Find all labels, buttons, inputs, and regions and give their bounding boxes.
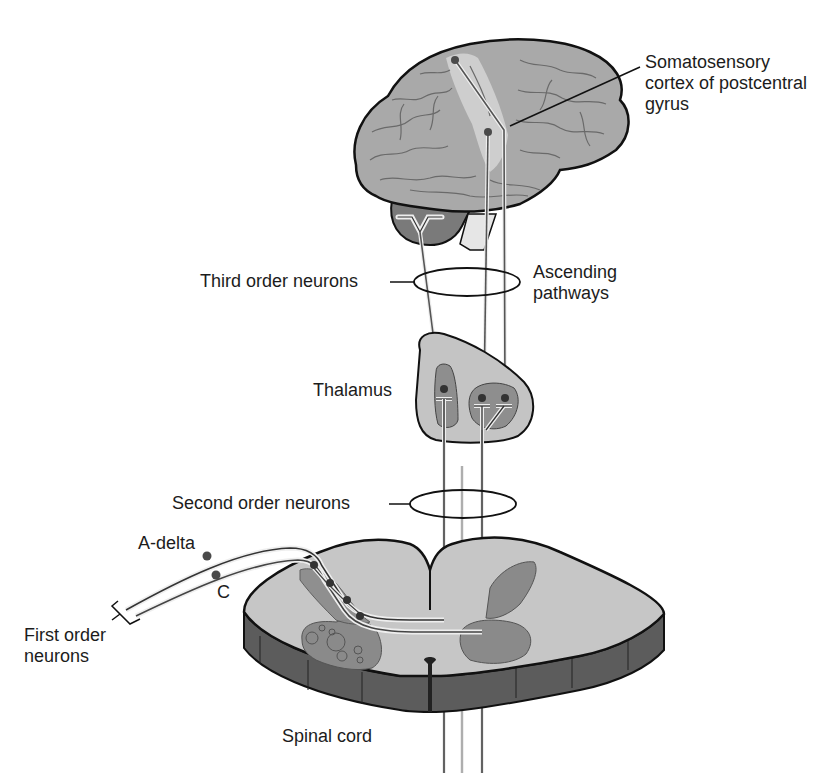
label-first-order-neurons: First order neurons bbox=[24, 625, 106, 667]
label-line: Somatosensory bbox=[645, 52, 807, 73]
label-third-order-neurons: Third order neurons bbox=[200, 271, 358, 292]
label-a-delta: A-delta bbox=[138, 533, 195, 554]
label-line: gyrus bbox=[645, 94, 807, 115]
label-line: Ascending bbox=[533, 262, 617, 283]
cortex-neuron-lower bbox=[484, 128, 492, 136]
label-thalamus: Thalamus bbox=[313, 380, 392, 401]
c-cell-body bbox=[212, 571, 221, 580]
label-line: neurons bbox=[24, 646, 106, 667]
label-spinal-cord: Spinal cord bbox=[282, 726, 372, 747]
label-c-fiber: C bbox=[217, 582, 230, 603]
diagram-svg bbox=[0, 0, 836, 773]
label-ascending-pathways: Ascending pathways bbox=[533, 262, 617, 304]
label-somatosensory-cortex: Somatosensory cortex of postcentral gyru… bbox=[645, 52, 807, 115]
label-line: First order bbox=[24, 625, 106, 646]
a-delta-cell-body bbox=[203, 552, 212, 561]
brain bbox=[354, 39, 628, 250]
label-line: pathways bbox=[533, 283, 617, 304]
gray-matter-right bbox=[460, 620, 531, 663]
thalamus bbox=[416, 333, 533, 443]
cortex-neuron-upper bbox=[451, 56, 459, 64]
pain-pathway-diagram: Somatosensory cortex of postcentral gyru… bbox=[0, 0, 836, 773]
label-second-order-neurons: Second order neurons bbox=[172, 493, 350, 514]
label-line: cortex of postcentral bbox=[645, 73, 807, 94]
